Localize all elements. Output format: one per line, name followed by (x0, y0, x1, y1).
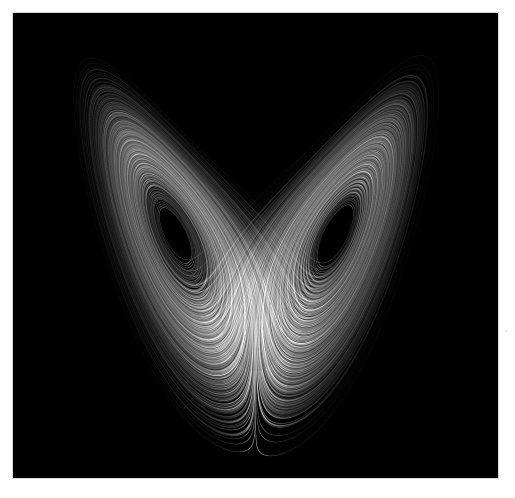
attractor-plot-panel (13, 13, 498, 478)
margin-speck (505, 330, 507, 332)
lorenz-attractor-canvas (13, 13, 498, 478)
figure-root: Lorenz attractor trajectory x-z plane (0, 0, 515, 498)
